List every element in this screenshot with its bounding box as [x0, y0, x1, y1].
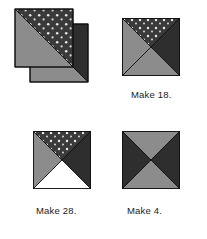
figure-make-18: [122, 18, 180, 76]
half-square-unit-dotted-gray: [15, 9, 73, 67]
figure-make-28: [33, 131, 91, 189]
figure-make-4: [122, 131, 180, 189]
caption-make-4: Make 4.: [127, 206, 162, 216]
diagram-canvas: Make 18. Make 28. Make 4.: [0, 0, 207, 239]
caption-make-18: Make 18.: [131, 90, 172, 100]
figure-offset-half-square-pair: [10, 4, 94, 88]
caption-make-28: Make 28.: [36, 206, 77, 216]
